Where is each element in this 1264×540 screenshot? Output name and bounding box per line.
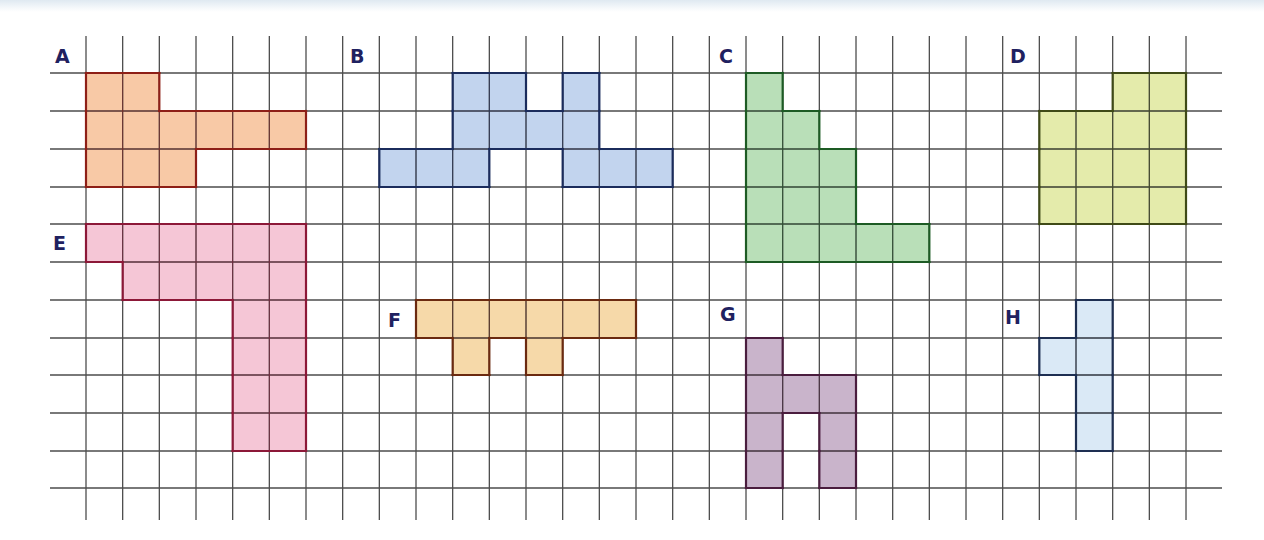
shape-cell [86,111,123,149]
shape-label-d: D [1010,47,1026,66]
shape-cell [269,111,306,149]
shape-cell [1149,149,1186,187]
shape-cell [123,149,160,187]
shape-cell [269,375,306,413]
shape-label-h: H [1005,308,1021,327]
shape-cell [746,451,783,488]
shape-cell [1076,338,1113,375]
shape-cell [819,149,856,187]
shape-cell [269,262,306,300]
shape-label-c: C [719,47,733,66]
shape-cell [563,111,600,149]
shape-cell [269,338,306,375]
shape-cell [269,300,306,338]
shape-label-f: F [388,311,401,330]
shape-cell [1039,149,1076,187]
shape-cell [1039,111,1076,149]
shape-cell [453,300,490,338]
shape-cell [269,224,306,262]
shape-cell [526,338,563,375]
shape-cell [746,338,783,375]
shape-cell [563,73,600,111]
shape-cell [233,338,270,375]
shape-cell [819,451,856,488]
shape-cell [416,300,453,338]
shape-cell [489,73,526,111]
shape-cell [453,338,490,375]
shape-cell [783,111,820,149]
shape-cell [123,111,160,149]
shape-cell [196,224,233,262]
shape-cell [233,111,270,149]
shape-cell [563,300,600,338]
shape-cell [783,375,820,413]
shape-cell [783,187,820,224]
shape-cell [233,413,270,451]
shape-cell [196,111,233,149]
shape-cell [1076,187,1113,224]
shape-label-g: G [720,305,736,324]
shape-cell [746,149,783,187]
shape-cell [379,149,416,187]
shape-cell [819,413,856,451]
shape-cell [526,300,563,338]
shape-cell [856,224,893,262]
shape-cell [1039,187,1076,224]
shape-cell [746,73,783,111]
shape-cell [1076,413,1113,451]
shape-cell [233,375,270,413]
shape-cell [86,149,123,187]
shape-cell [1076,375,1113,413]
shape-cell [746,375,783,413]
shape-label-a: A [55,47,70,66]
shape-cell [489,300,526,338]
shape-cell [893,224,930,262]
shape-cell [416,149,453,187]
shape-cell [783,224,820,262]
shape-cell [819,375,856,413]
shape-cell [599,149,636,187]
shape-cell [1149,73,1186,111]
shape-cell [746,187,783,224]
shape-cell [1149,187,1186,224]
grid-figure [0,0,1264,540]
shape-cell [159,111,196,149]
shape-cell [563,149,600,187]
shape-c [746,73,929,262]
shape-cell [123,262,160,300]
shape-cell [233,224,270,262]
shape-cell [1113,111,1150,149]
shape-cell [1113,149,1150,187]
shape-cell [159,224,196,262]
shape-cell [233,262,270,300]
shape-cell [746,224,783,262]
shape-cell [1076,149,1113,187]
shape-label-b: B [350,47,364,66]
shape-cell [526,111,563,149]
shape-cell [819,224,856,262]
shape-cell [233,300,270,338]
shape-cell [1113,73,1150,111]
shape-cell [196,262,233,300]
shape-cell [453,73,490,111]
shape-cell [86,224,123,262]
shape-cell [123,224,160,262]
shape-cell [489,111,526,149]
shape-cell [599,300,636,338]
shape-cell [1076,111,1113,149]
shape-cell [636,149,673,187]
shape-cell [159,149,196,187]
shape-cell [159,262,196,300]
shape-cell [746,111,783,149]
shape-cell [269,413,306,451]
shape-cell [453,149,490,187]
shape-cell [1149,111,1186,149]
shape-cell [86,73,123,111]
shape-label-e: E [53,234,66,253]
shape-cell [819,187,856,224]
shape-cell [1113,187,1150,224]
shape-cell [1039,338,1076,375]
shape-cell [453,111,490,149]
shape-cell [123,73,160,111]
shape-cell [783,149,820,187]
